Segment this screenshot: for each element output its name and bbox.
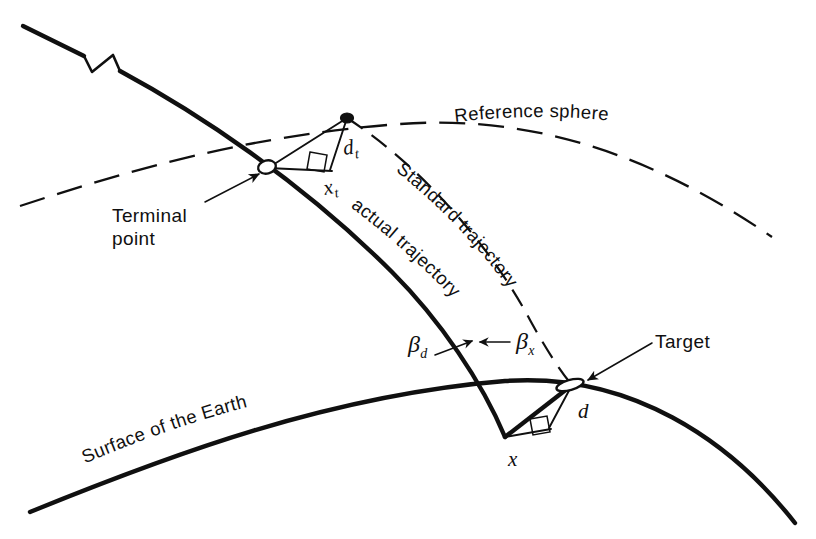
terminal-right-angle-mark-icon xyxy=(307,152,327,172)
x-symbol: x xyxy=(507,447,518,471)
terminal-point-leader-line xyxy=(205,174,259,202)
actual-trajectory-terminal-leg xyxy=(505,385,572,437)
beta-x-symbol: βx xyxy=(515,328,535,358)
trajectory-break-zigzag-icon xyxy=(84,55,120,72)
target-label: Target xyxy=(655,331,711,352)
reference-sphere-label: Reference sphere xyxy=(453,100,610,126)
target-right-angle-mark-icon xyxy=(530,416,550,435)
standard-trajectory-label: Standard trajectory xyxy=(393,158,523,292)
terminal-point-label-line1: Terminal xyxy=(112,205,187,226)
beta-d-symbol: βd xyxy=(407,331,428,361)
earth-surface-curve xyxy=(30,380,795,523)
earth-surface-label: Surface of the Earth xyxy=(78,390,249,467)
xt-symbol: xt xyxy=(320,173,341,203)
trajectory-geometry-diagram: Surface of the Earth Reference sphere St… xyxy=(0,0,816,539)
terminal-apex-marker xyxy=(341,113,354,123)
actual-trajectory-upper-segment xyxy=(23,26,84,56)
earth-surface-group: Surface of the Earth xyxy=(30,380,795,523)
target-marker xyxy=(555,376,585,393)
terminal-point-annotation-group: Terminal point xyxy=(112,174,259,249)
d-symbol: d xyxy=(578,399,589,423)
target-triangle-group: d x xyxy=(505,376,589,471)
figure-canvas: Surface of the Earth Reference sphere St… xyxy=(0,0,816,539)
terminal-point-triangle-group: dt xt xyxy=(257,113,361,203)
actual-trajectory-main-segment xyxy=(120,71,505,437)
beta-angle-annotation-group: βd βx xyxy=(407,328,535,361)
target-annotation-group: Target xyxy=(588,331,711,380)
actual-trajectory-group: actual trajectory xyxy=(23,26,572,437)
terminal-hypotenuse-edge xyxy=(268,118,347,168)
terminal-point-label-line2: point xyxy=(112,228,156,249)
dt-symbol: dt xyxy=(341,134,361,163)
target-leader-line xyxy=(588,343,652,380)
